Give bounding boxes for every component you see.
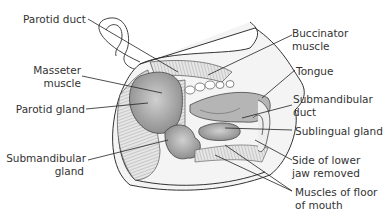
label-sublingual-gland: Sublingual gland [295,125,383,138]
label-tongue: Tongue [296,65,334,78]
label-buccinator-muscle-1: Buccinator [292,27,348,40]
label-masseter-muscle-2: muscle [6,77,81,90]
label-muscles-floor-2: of mouth [295,199,343,212]
label-buccinator-muscle-2: muscle [292,40,330,53]
label-muscles-floor-1: Muscles of floor [295,186,377,199]
label-submandibular-duct-2: duct [293,106,316,119]
label-side-of-lower-jaw-2: jaw removed [292,167,360,180]
label-parotid-duct: Parotid duct [6,13,86,26]
label-submandibular-gland-1: Submandibular [2,152,86,165]
label-side-of-lower-jaw-1: Side of lower [292,154,360,167]
label-masseter-muscle-1: Masseter [6,64,81,77]
label-submandibular-gland-2: gland [2,165,84,178]
sublingual-gland [199,123,240,141]
label-submandibular-duct-1: Submandibular [293,93,373,106]
label-parotid-gland: Parotid gland [2,103,85,116]
ear [99,18,140,70]
